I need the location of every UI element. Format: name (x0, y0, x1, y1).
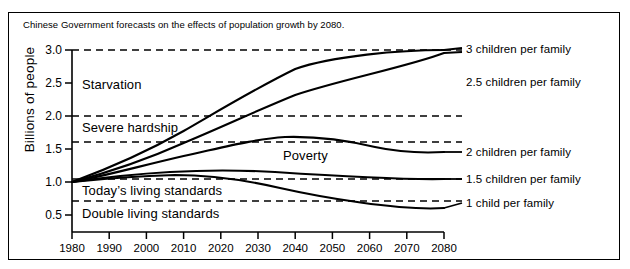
series-label-1-child: 1 child per family (466, 197, 554, 209)
y-tick-label-1.5: 1.5 (28, 144, 62, 154)
y-axis-title: Billions of people (22, 0, 37, 205)
y-tick-label-0.5: 0.5 (28, 210, 62, 220)
x-tick-label-2000: 2000 (126, 243, 166, 254)
y-tick-label-2.5: 2.5 (28, 78, 62, 88)
figure-caption: Chinese Government forecasts on the effe… (23, 19, 353, 31)
x-tick-label-1990: 1990 (89, 243, 129, 254)
x-tick-label-2070: 2070 (387, 243, 427, 254)
series-label-2-children: 2 children per family (466, 146, 571, 158)
y-tick-label-3.0: 3.0 (28, 45, 62, 55)
x-tick-label-2080: 2080 (424, 243, 464, 254)
x-tick-label-2060: 2060 (350, 243, 390, 254)
x-tick-label-2050: 2050 (312, 243, 352, 254)
x-tick-label-2040: 2040 (275, 243, 315, 254)
band-label-severe-hardship: Severe hardship (82, 120, 178, 135)
y-tick-label-2.0: 2.0 (28, 111, 62, 121)
band-label-double-living: Double living standards (82, 206, 219, 221)
series-label-1.5-children: 1.5 children per family (466, 173, 581, 185)
x-tick-label-2030: 2030 (238, 243, 278, 254)
x-tick-label-2020: 2020 (201, 243, 241, 254)
y-tick-label-1.0: 1.0 (28, 177, 62, 187)
band-label-todays-living: Today’s living standards (82, 183, 222, 198)
series-label-3-children: 3 children per family (466, 43, 571, 55)
band-label-starvation: Starvation (82, 77, 142, 92)
series-label-2.5-children: 2.5 children per family (466, 76, 581, 88)
band-label-poverty: Poverty (283, 148, 328, 163)
x-tick-label-1980: 1980 (52, 243, 92, 254)
x-tick-label-2010: 2010 (164, 243, 204, 254)
